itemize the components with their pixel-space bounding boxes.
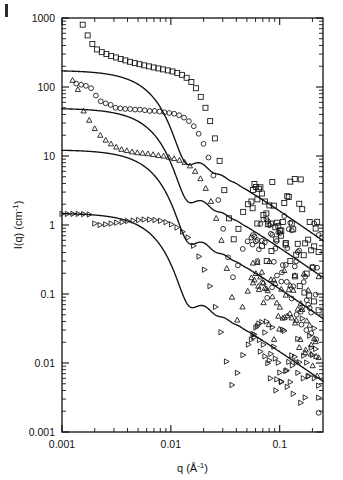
- y-tick-label: 0.001: [29, 426, 55, 438]
- y-tick-label: 1000: [32, 12, 56, 24]
- y-tick-label: 1: [49, 219, 55, 231]
- scattering-plot: 0.0010.010.10.0010.010.11101001000q (Å-1…: [0, 0, 343, 480]
- x-axis-title: q (Å-1): [177, 461, 208, 475]
- y-tick-label: 0.01: [35, 357, 56, 369]
- y-tick-label: 10: [43, 150, 55, 162]
- fit-line-dataset-3: [62, 150, 323, 318]
- figure-panel: 0.0010.010.10.0010.010.11101001000q (Å-1…: [0, 0, 343, 480]
- markers-dataset-2: [74, 81, 321, 415]
- y-axis-title: I(q) (cm-1): [11, 201, 25, 250]
- x-tick-label: 0.1: [272, 438, 287, 450]
- noise-markers-dataset-4: [249, 316, 321, 406]
- x-tick-label: 0.001: [49, 438, 75, 450]
- x-tick-label: 0.01: [161, 438, 182, 450]
- y-tick-label: 0.1: [40, 288, 55, 300]
- panel-label-mark: [5, 4, 8, 17]
- y-tick-label: 100: [37, 81, 55, 93]
